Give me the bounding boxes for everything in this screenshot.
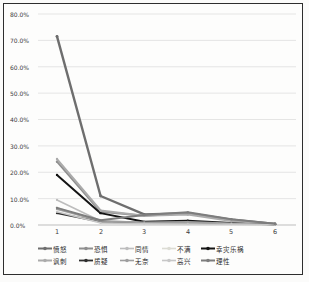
legend-label: 幸灾乐祸 — [216, 244, 244, 254]
legend-label: 愤怒 — [53, 244, 67, 254]
legend-item: 高兴 — [162, 256, 201, 266]
data-series-lines — [56, 35, 277, 226]
legend-item: 无奈 — [120, 256, 162, 266]
y-axis-tick-label: 80.0% — [10, 11, 36, 18]
x-axis-tick-label: 2 — [94, 228, 108, 236]
legend-marker-icon — [120, 245, 134, 252]
y-axis-tick-label: 20.0% — [10, 169, 36, 176]
x-axis-tick-label: 3 — [137, 228, 151, 236]
legend-label: 同情 — [135, 244, 149, 254]
legend-item: 不满 — [162, 244, 201, 254]
legend-marker-icon — [38, 245, 52, 252]
legend-label: 无奈 — [135, 256, 149, 266]
legend-item: 恐惧 — [79, 244, 120, 254]
legend-label: 恐惧 — [94, 244, 108, 254]
legend-label: 不满 — [177, 244, 191, 254]
x-axis-tick-label: 1 — [50, 228, 64, 236]
legend-item: 同情 — [120, 244, 162, 254]
x-axis-tick-label: 5 — [224, 228, 238, 236]
legend-label: 高兴 — [177, 256, 191, 266]
y-axis-tick-label: 30.0% — [10, 143, 36, 150]
chart-legend-row-1: 愤怒 恐惧 同情 不满 幸灾乐祸 — [38, 243, 300, 254]
legend-label: 质疑 — [94, 256, 108, 266]
chart-legend-row-2: 讽刺 质疑 无奈 高兴 理性 — [38, 255, 300, 266]
y-axis-tick-label: 40.0% — [10, 116, 36, 123]
legend-item: 愤怒 — [38, 244, 79, 254]
x-axis-tick-label: 6 — [268, 228, 282, 236]
line-chart-figure: 80.0% 70.0% 60.0% 50.0% 40.0% 30.0% 20.0… — [0, 0, 309, 282]
y-axis-tick-label: 10.0% — [10, 196, 36, 203]
legend-marker-icon — [79, 245, 93, 252]
legend-marker-icon — [162, 257, 176, 264]
y-axis-tick-label: 0.0% — [10, 222, 36, 229]
legend-marker-icon — [162, 245, 176, 252]
legend-item: 讽刺 — [38, 256, 79, 266]
legend-marker-icon — [38, 257, 52, 264]
y-axis-tick-label: 70.0% — [10, 37, 36, 44]
legend-item: 理性 — [201, 256, 269, 266]
legend-marker-icon — [201, 257, 215, 264]
legend-item: 质疑 — [79, 256, 120, 266]
y-axis-tick-label: 60.0% — [10, 64, 36, 71]
legend-marker-icon — [79, 257, 93, 264]
legend-item: 幸灾乐祸 — [201, 244, 269, 254]
legend-label: 讽刺 — [53, 256, 67, 266]
x-axis-tick-label: 4 — [181, 228, 195, 236]
legend-marker-icon — [201, 245, 215, 252]
legend-marker-icon — [120, 257, 134, 264]
chart-plot-area — [0, 0, 309, 282]
legend-label: 理性 — [216, 256, 230, 266]
y-axis-tick-label: 50.0% — [10, 90, 36, 97]
